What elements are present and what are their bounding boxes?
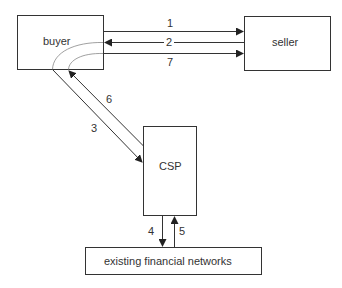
- edge-5: 5: [175, 217, 186, 247]
- edge-4-label: 4: [148, 225, 154, 237]
- arrow-3-line: [53, 70, 143, 163]
- edge-6: 6: [69, 71, 144, 146]
- csp-label: CSP: [159, 160, 182, 172]
- node-financial-networks: existing financial networks: [86, 248, 262, 275]
- node-csp: CSP: [144, 127, 197, 216]
- seller-label: seller: [272, 36, 299, 48]
- edge-4: 4: [148, 216, 163, 246]
- edge-7: 7: [104, 54, 243, 69]
- node-seller: seller: [245, 17, 331, 71]
- edge-5-label: 5: [179, 225, 185, 237]
- edge-3-label: 3: [91, 122, 97, 134]
- arrow-6-line: [69, 71, 144, 146]
- edge-2: 2: [105, 36, 244, 48]
- edge-6-label: 6: [106, 93, 112, 105]
- financial-networks-label: existing financial networks: [104, 255, 232, 267]
- edge-7-label: 7: [167, 56, 173, 68]
- edge-3: 3: [53, 70, 143, 163]
- diagram-canvas: buyer seller CSP existing financial netw…: [0, 0, 342, 288]
- edge-2-label: 2: [166, 36, 172, 48]
- buyer-label: buyer: [43, 35, 71, 47]
- node-buyer: buyer: [18, 16, 104, 70]
- edge-1: 1: [104, 17, 243, 32]
- edge-1-label: 1: [167, 17, 173, 29]
